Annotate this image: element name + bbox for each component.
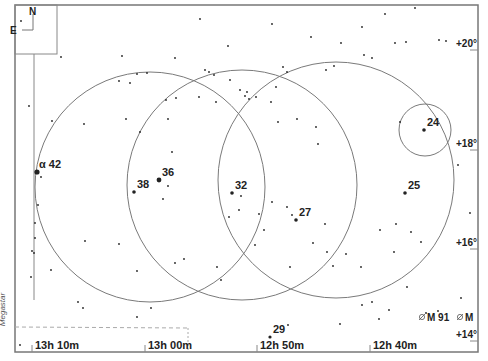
star-label: α 42 — [39, 158, 61, 170]
star — [345, 253, 347, 255]
star — [287, 324, 289, 326]
star — [34, 222, 36, 224]
star — [82, 307, 84, 309]
star — [399, 121, 401, 123]
star — [136, 270, 138, 272]
star — [275, 86, 277, 88]
dec-axis-labels: +20°+18°+16°+14° — [456, 38, 478, 341]
star — [325, 69, 327, 71]
star — [215, 101, 217, 103]
compass-east-label: E — [10, 25, 17, 36]
star — [139, 131, 141, 133]
named-star[interactable] — [294, 218, 298, 222]
star — [388, 309, 390, 311]
star — [84, 240, 86, 242]
star — [371, 57, 373, 59]
named-star[interactable] — [34, 169, 39, 174]
star — [227, 45, 229, 47]
named-star[interactable] — [422, 128, 426, 132]
named-star[interactable] — [230, 191, 234, 195]
star — [315, 126, 317, 128]
star — [289, 266, 291, 268]
star — [136, 73, 138, 75]
dso-label[interactable]: M 91 — [427, 312, 450, 323]
star-field — [19, 7, 471, 346]
star-chart[interactable]: N E α 4236383227252429 M 91M 13h 10m13h … — [0, 0, 488, 361]
dec-label: +20° — [456, 38, 477, 49]
dec-label: +18° — [456, 138, 477, 149]
star — [317, 143, 319, 145]
star — [229, 79, 231, 81]
star — [414, 7, 416, 9]
dso-label[interactable]: M — [465, 312, 473, 323]
compass-north-label: N — [29, 6, 36, 17]
star — [384, 13, 386, 15]
star — [438, 39, 440, 41]
star — [213, 74, 215, 76]
star — [393, 251, 395, 253]
dec-label: +14° — [456, 329, 477, 340]
star — [228, 216, 230, 218]
star — [282, 66, 284, 68]
star — [379, 229, 381, 231]
star — [20, 20, 22, 22]
star — [254, 244, 256, 246]
ra-label: 13h 10m — [35, 339, 79, 351]
star — [271, 201, 273, 203]
dashed-boundary — [15, 327, 188, 328]
star — [239, 89, 241, 91]
star — [60, 56, 62, 58]
star — [324, 223, 326, 225]
star — [198, 96, 200, 98]
star-label: 25 — [408, 179, 420, 191]
star — [167, 185, 169, 187]
star — [255, 96, 257, 98]
star — [263, 229, 265, 231]
star — [238, 209, 240, 211]
ra-axis-labels: 13h 10m13h 00m12h 50m12h 40m — [32, 339, 417, 352]
star — [129, 82, 131, 84]
star — [339, 323, 341, 325]
star-label: 32 — [235, 179, 247, 191]
star — [40, 176, 42, 178]
star — [165, 99, 167, 101]
star — [286, 206, 288, 208]
star — [37, 204, 39, 206]
star — [34, 237, 36, 239]
star — [405, 41, 407, 43]
fov-circle — [35, 72, 265, 302]
star — [420, 241, 422, 243]
star — [118, 80, 120, 82]
star-label: 36 — [162, 166, 174, 178]
star — [183, 258, 185, 260]
named-star[interactable] — [403, 191, 407, 195]
star — [77, 301, 79, 303]
star — [174, 57, 176, 59]
star — [271, 23, 273, 25]
star — [340, 42, 342, 44]
star — [406, 286, 408, 288]
dec-label: +16° — [456, 237, 477, 248]
star — [33, 252, 35, 254]
star — [258, 213, 260, 215]
star — [199, 18, 201, 20]
star — [361, 26, 363, 28]
star — [371, 301, 373, 303]
star — [204, 69, 206, 71]
star — [150, 307, 152, 309]
star — [457, 164, 459, 166]
star — [51, 120, 53, 122]
star — [363, 54, 365, 56]
labeled-stars: α 4236383227252429 — [34, 116, 440, 339]
star-label: 24 — [427, 116, 440, 128]
ra-label: 13h 00m — [148, 339, 192, 351]
star — [395, 223, 397, 225]
star-label: 38 — [137, 178, 149, 190]
star — [167, 118, 169, 120]
named-star[interactable] — [157, 178, 162, 183]
star — [361, 304, 363, 306]
named-star[interactable] — [132, 190, 136, 194]
star — [296, 118, 298, 120]
star — [216, 266, 218, 268]
star — [310, 36, 312, 38]
